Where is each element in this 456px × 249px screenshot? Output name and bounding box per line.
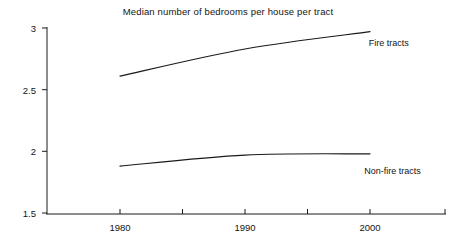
y-tick-label-2-5: 2.5	[14, 84, 36, 95]
y-tick-label-3: 3	[14, 23, 36, 34]
y-axis-ticks	[42, 28, 47, 213]
series-line-non-fire-tracts	[120, 154, 370, 166]
x-tick-label-1980: 1980	[109, 222, 130, 233]
series-line-fire-tracts	[120, 32, 370, 76]
series-label-non-fire-tracts: Non-fire tracts	[364, 166, 421, 176]
y-tick-label-2: 2	[14, 146, 36, 157]
x-tick-label-1990: 1990	[234, 222, 255, 233]
chart-page: Median number of bedrooms per house per …	[0, 0, 456, 249]
series-label-fire-tracts: Fire tracts	[369, 38, 409, 48]
x-axis-ticks	[120, 209, 445, 214]
series-lines	[120, 32, 370, 166]
y-tick-label-1-5: 1.5	[14, 208, 36, 219]
x-tick-label-2000: 2000	[359, 222, 380, 233]
axis-group	[46, 27, 446, 214]
